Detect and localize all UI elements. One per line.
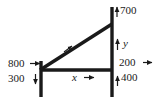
force-label-700: 700 — [120, 5, 137, 16]
structure-members — [40, 7, 113, 97]
force-label-400: 400 — [121, 72, 138, 83]
force-label-300: 300 — [8, 73, 25, 84]
axis-label-y: y — [123, 38, 128, 49]
force-label-800: 800 — [8, 58, 25, 69]
force-diagram-figure: 800 300 700 y 200 400 x — [0, 0, 157, 103]
axis-label-x: x — [72, 72, 77, 83]
force-label-200: 200 — [119, 57, 136, 68]
diagonal-member — [40, 24, 112, 70]
